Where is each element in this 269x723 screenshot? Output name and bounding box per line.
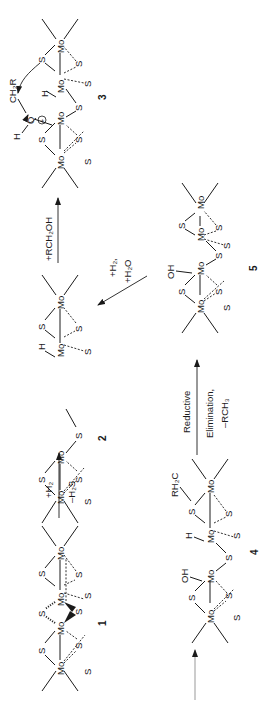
atom-mo: Mo — [195, 300, 206, 313]
atom-s: S — [82, 593, 93, 599]
atom-mo: Mo — [55, 344, 66, 357]
atom-h: H — [39, 90, 50, 97]
atom-s: S — [36, 57, 47, 63]
byproduct-label: +H₂O — [122, 260, 133, 284]
compound-number-4: 4 — [249, 549, 260, 555]
structure-1: Mo Mo Mo Mo S S S S S S S S 1 — [36, 526, 108, 691]
atom-s: S — [73, 609, 84, 615]
atom-s: S — [36, 324, 47, 330]
atom-s: S — [36, 611, 47, 617]
structure-5: Mo Mo Mo Mo S S S S S S S OH 5 — [165, 183, 259, 333]
compound-number-3: 3 — [97, 94, 108, 100]
atom-s: S — [186, 509, 197, 515]
atom-s: S — [73, 105, 84, 111]
structure-3: Mo Mo Mo Mo S S S S S S S H O + H CH₂R 3 — [7, 19, 108, 188]
atom-s: S — [223, 555, 234, 561]
ch2r-group: CH₂R — [7, 79, 18, 103]
atom-s: S — [73, 61, 84, 67]
atom-s: S — [73, 137, 84, 143]
atom-s: S — [82, 349, 93, 355]
compound-number-5: 5 — [248, 265, 259, 271]
atom-mo: Mo — [55, 662, 66, 675]
atom-s: S — [82, 81, 93, 87]
atom-mo: Mo — [205, 530, 216, 543]
atom-s: S — [36, 648, 47, 654]
atom-s: S — [36, 571, 47, 577]
atom-s: S — [231, 615, 242, 621]
oh-group: OH — [165, 265, 176, 279]
positive-charge: + — [39, 119, 46, 123]
atom-s: S — [186, 595, 197, 601]
atom-s: S — [36, 137, 47, 143]
arrow-5-to-2: +H₂, +H₂O — [98, 258, 147, 305]
atom-mo: Mo — [55, 491, 66, 504]
atom-mo: Mo — [55, 296, 66, 309]
atom-s: S — [221, 305, 232, 311]
atom-s: S — [82, 669, 93, 675]
atom-s: S — [73, 572, 84, 578]
atom-s: S — [73, 433, 84, 439]
atom-s: S — [73, 643, 84, 649]
compound-number-2: 2 — [97, 435, 108, 441]
atom-s: S — [231, 533, 242, 539]
atom-mo: Mo — [205, 570, 216, 583]
atom-s: S — [176, 289, 187, 295]
atom-mo: Mo — [195, 262, 206, 275]
atom-h: H — [11, 133, 22, 140]
atom-mo: Mo — [55, 80, 66, 93]
atom-mo: Mo — [55, 593, 66, 606]
reaction-label: Reductive — [181, 391, 192, 433]
atom-mo: Mo — [55, 547, 66, 560]
atom-s: S — [82, 499, 93, 505]
atom-mo: Mo — [55, 40, 66, 53]
atom-s: S — [82, 159, 93, 165]
structure-4: Mo Mo Mo Mo S S S S S S S OH H RH₂C 4 — [169, 459, 260, 643]
atom-s: S — [36, 477, 47, 483]
reaction-label: Elimination, — [204, 389, 215, 438]
rh2c-group: RH₂C — [169, 473, 180, 497]
atom-s: S — [176, 223, 187, 229]
atom-mo: Mo — [55, 156, 66, 169]
atom-s: S — [223, 511, 234, 517]
atom-s: S — [213, 225, 224, 231]
reagent-label: +H₂ — [43, 482, 54, 498]
atom-s: S — [213, 289, 224, 295]
atom-mo: Mo — [205, 480, 216, 493]
reagent-label: +RCH₂OH — [43, 217, 54, 261]
atom-mo: Mo — [55, 622, 66, 635]
atom-s: S — [221, 243, 232, 249]
byproduct-label: –RCH₃ — [219, 398, 230, 428]
atom-o: O — [25, 117, 36, 124]
atom-h: H — [183, 532, 194, 539]
reagent-label: +H₂, — [107, 258, 118, 277]
mechanism-diagram: Mo Mo Mo Mo S S S S S S S S 1 +H₂ –H₂S — [0, 0, 269, 723]
byproduct-label: –H₂S — [66, 481, 77, 503]
atom-s: S — [73, 477, 84, 483]
arrow-2-to-3: +RCH₂OH — [43, 198, 58, 263]
atom-s: S — [73, 326, 84, 332]
atom-mo: Mo — [205, 610, 216, 623]
compound-number-1: 1 — [97, 620, 108, 626]
atom-h: H — [36, 343, 47, 350]
atom-mo: Mo — [55, 112, 66, 125]
oh-group: OH — [179, 569, 190, 583]
atom-mo: Mo — [195, 196, 206, 209]
atom-s: S — [223, 593, 234, 599]
arrow-4-to-5: Reductive Elimination, –RCH₃ — [181, 360, 230, 455]
atom-mo: Mo — [55, 451, 66, 464]
atom-mo: Mo — [195, 228, 206, 241]
atom-s: S — [213, 253, 224, 259]
